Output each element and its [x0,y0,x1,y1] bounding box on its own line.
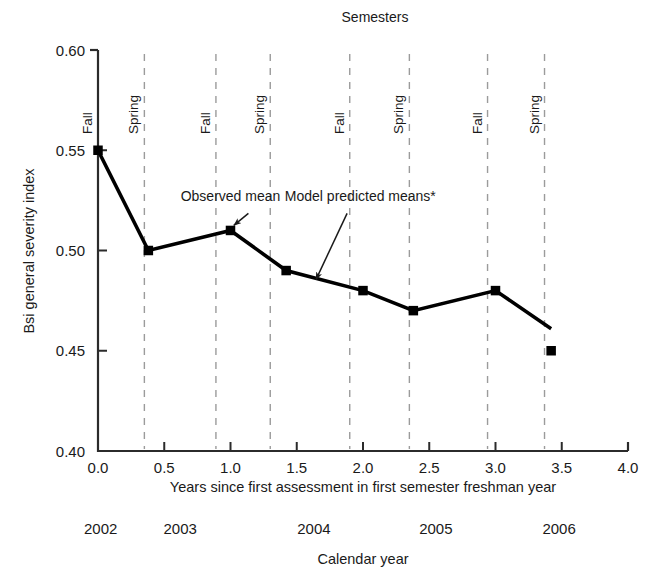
semester-label-4: Fall [332,112,347,134]
x-tick-label-3: 1.5 [286,459,307,476]
data-point-0-6 [491,286,501,296]
semester-label-6: Fall [470,112,485,134]
x-tick-label-4: 2.0 [353,459,374,476]
annotation-label-1: Model predicted means* [285,188,437,204]
semester-label-1: Spring [126,95,141,134]
data-point-0-5 [409,306,419,316]
x-tick-label-8: 4.0 [618,459,639,476]
data-point-0-7 [546,346,556,356]
data-point-0-3 [281,266,291,276]
data-point-0-0 [93,146,103,156]
data-point-0-1 [144,246,154,256]
calendar-year-label-3: 2005 [419,520,452,537]
x-tick-label-0: 0.0 [88,459,109,476]
y-tick-label-4: 0.40 [56,443,85,460]
y-tick-label-0: 0.60 [56,42,85,59]
x-axis-title: Years since first assessment in first se… [170,479,556,495]
semester-label-3: Spring [252,95,267,134]
y-tick-label-1: 0.55 [56,142,85,159]
calendar-year-label-4: 2006 [542,520,575,537]
chart-figure: Semesters Bsi general severity index Yea… [0,0,660,588]
data-point-0-2 [226,226,236,236]
calendar-year-label-2: 2004 [297,520,330,537]
y-axis-title: Bsi general severity index [21,168,37,334]
y-tick-label-3: 0.45 [56,342,85,359]
bsi-severity-line-chart: Semesters Bsi general severity index Yea… [0,0,660,588]
y-tick-label-2: 0.50 [56,242,85,259]
x-tick-label-2: 1.0 [220,459,241,476]
calendar-year-label-0: 2002 [84,520,117,537]
x-tick-label-1: 0.5 [154,459,175,476]
chart-title: Semesters [342,9,409,25]
semester-label-2: Fall [198,112,213,134]
semester-label-0: Fall [80,112,95,134]
semester-label-7: Spring [527,95,542,134]
x-tick-label-7: 3.5 [551,459,572,476]
x-tick-label-6: 3.0 [485,459,506,476]
data-point-0-4 [358,286,368,296]
x-tick-label-5: 2.5 [419,459,440,476]
semester-label-5: Spring [391,95,406,134]
calendar-year-label-1: 2003 [163,520,196,537]
annotation-label-0: Observed mean [181,188,281,204]
secondary-axis-title: Calendar year [317,551,408,567]
